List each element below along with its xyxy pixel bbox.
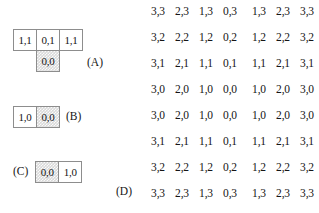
coordinate-grid-row: 3,1 2,1 1,1 0,1 1,1 2,1 3,1: [146, 132, 319, 152]
coordinate-value: 1,3: [194, 6, 218, 18]
coordinate-value: 3,2: [295, 32, 319, 44]
coordinate-value: 0,2: [218, 32, 242, 44]
coordinate-value: 2,0: [271, 84, 295, 96]
coordinate-value: 3,1: [295, 58, 319, 70]
coordinate-value: 1,3: [247, 188, 271, 200]
coordinate-value: 1,2: [247, 32, 271, 44]
coordinate-value: 1,2: [194, 32, 218, 44]
coordinate-value: 3,2: [295, 162, 319, 174]
coordinate-value: 0,1: [218, 58, 242, 70]
diagram-a-row: 1,1 0,1 1,1: [13, 29, 83, 51]
coordinate-value: 2,0: [271, 110, 295, 122]
coordinate-grid-row: 3,0 2,0 1,0 0,0 1,0 2,0 3,0: [146, 106, 319, 126]
diagram-d-label: (D): [116, 186, 132, 198]
diagram-b: 1,0 0,0 (B): [13, 106, 81, 128]
coordinate-value: 2,1: [271, 58, 295, 70]
diagram-c-cell-shaded: 0,0: [35, 161, 59, 183]
diagram-a-cell-empty: [59, 50, 83, 72]
coordinate-value: 3,1: [146, 58, 170, 70]
coordinate-value: 3,3: [146, 6, 170, 18]
coordinate-value: 0,3: [218, 6, 242, 18]
coordinate-grid-row: 3,0 2,0 1,0 0,0 1,0 2,0 3,0: [146, 80, 319, 100]
coordinate-value: 0,1: [218, 136, 242, 148]
coordinate-value: 0,3: [218, 188, 242, 200]
coordinate-value: 1,1: [247, 58, 271, 70]
coordinate-value: 3,0: [146, 110, 170, 122]
diagram-a-cell-shaded: 0,0: [36, 50, 60, 72]
coordinate-value: 0,0: [218, 84, 242, 96]
coordinate-value: 2,2: [170, 32, 194, 44]
coordinate-value: 3,0: [295, 110, 319, 122]
diagram-c: (C) 0,0 1,0: [13, 161, 82, 183]
coordinate-value: 1,1: [247, 136, 271, 148]
diagram-b-grid: 1,0 0,0: [13, 106, 60, 128]
coordinate-value: 2,3: [271, 6, 295, 18]
diagram-b-cell-shaded: 0,0: [36, 106, 60, 128]
coordinate-value: 1,2: [194, 162, 218, 174]
diagram-a-label: (A): [87, 57, 103, 69]
coordinate-value: 1,3: [247, 6, 271, 18]
coordinate-value: 1,0: [247, 84, 271, 96]
coordinate-value: 3,3: [295, 6, 319, 18]
coordinate-value: 3,2: [146, 32, 170, 44]
coordinate-value: 1,0: [194, 84, 218, 96]
coordinate-value: 0,0: [218, 110, 242, 122]
diagram-c-label: (C): [13, 166, 28, 178]
diagram-panel: 1,1 0,1 1,1 0,0 (A) 1,0 0,0 (B) (C) 0,0: [0, 0, 150, 213]
coordinate-value: 2,2: [271, 32, 295, 44]
coordinate-value: 2,1: [170, 58, 194, 70]
coordinate-value: 2,0: [170, 84, 194, 96]
coordinate-value: 2,3: [170, 188, 194, 200]
diagram-a-cell: 1,1: [59, 29, 83, 51]
coordinate-value: 1,2: [247, 162, 271, 174]
coordinate-value: 2,1: [271, 136, 295, 148]
diagram-a: 1,1 0,1 1,1 0,0 (A): [13, 29, 83, 72]
diagram-a-row: 0,0: [13, 50, 83, 72]
coordinate-value: 2,2: [170, 162, 194, 174]
diagram-a-grid: 1,1 0,1 1,1 0,0: [13, 29, 83, 72]
coordinate-value: 2,2: [271, 162, 295, 174]
diagram-a-cell: 0,1: [36, 29, 60, 51]
coordinate-value: 2,1: [170, 136, 194, 148]
diagram-b-row: 1,0 0,0: [13, 106, 60, 128]
coordinate-value: 1,3: [194, 188, 218, 200]
coordinate-value: 1,0: [247, 110, 271, 122]
coordinate-value: 0,2: [218, 162, 242, 174]
coordinate-value: 3,2: [146, 162, 170, 174]
diagram-b-label: (B): [66, 111, 81, 123]
coordinate-grid-row: 3,3 2,3 1,3 0,3 1,3 2,3 3,3: [146, 184, 319, 204]
coordinate-grid-row: 3,1 2,1 1,1 0,1 1,1 2,1 3,1: [146, 54, 319, 74]
coordinate-value: 3,1: [146, 136, 170, 148]
coordinate-grid-row: 3,2 2,2 1,2 0,2 1,2 2,2 3,2: [146, 158, 319, 178]
diagram-c-grid: 0,0 1,0: [35, 161, 82, 183]
diagram-a-cell: 1,1: [13, 29, 37, 51]
coordinate-value: 3,3: [146, 188, 170, 200]
diagram-b-cell: 1,0: [13, 106, 37, 128]
diagram-a-cell-empty: [13, 50, 37, 72]
coordinate-grid-row: 3,3 2,3 1,3 0,3 1,3 2,3 3,3: [146, 2, 319, 22]
coordinate-value: 3,0: [146, 84, 170, 96]
coordinate-grid-row: 3,2 2,2 1,2 0,2 1,2 2,2 3,2: [146, 28, 319, 48]
coordinate-value: 2,3: [271, 188, 295, 200]
coordinate-value: 1,1: [194, 136, 218, 148]
coordinate-value: 2,0: [170, 110, 194, 122]
coordinate-value: 3,0: [295, 84, 319, 96]
coordinate-value: 3,3: [295, 188, 319, 200]
diagram-c-row: 0,0 1,0: [35, 161, 82, 183]
coordinate-value: 1,0: [194, 110, 218, 122]
coordinate-grid: 3,3 2,3 1,3 0,3 1,3 2,3 3,3 3,2 2,2 1,2 …: [146, 0, 319, 213]
coordinate-value: 2,3: [170, 6, 194, 18]
coordinate-value: 3,1: [295, 136, 319, 148]
diagram-c-cell: 1,0: [58, 161, 82, 183]
coordinate-value: 1,1: [194, 58, 218, 70]
